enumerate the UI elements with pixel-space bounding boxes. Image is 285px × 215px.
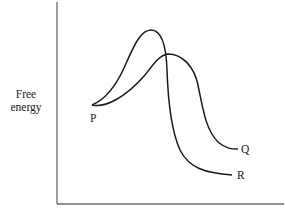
y-axis-label: Free energy bbox=[6, 88, 46, 114]
energy-profile-diagram: Free energy P Q R bbox=[0, 0, 285, 215]
curve-p-to-q bbox=[92, 54, 238, 149]
label-q: Q bbox=[241, 143, 249, 155]
label-p: P bbox=[90, 112, 96, 124]
curve-p-to-r bbox=[92, 30, 232, 175]
y-axis-label-line2: energy bbox=[6, 101, 46, 114]
label-r: R bbox=[237, 169, 245, 181]
y-axis-label-line1: Free bbox=[6, 88, 46, 101]
